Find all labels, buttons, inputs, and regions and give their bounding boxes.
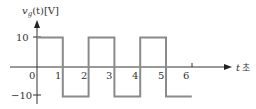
x-tick-label-4: 4 [132, 70, 138, 81]
x-tick-label-6: 6 [183, 70, 189, 81]
x-tick-label-2: 2 [81, 70, 87, 81]
y-tick-label-10: 10 [16, 32, 29, 43]
square-wave-chart: vg(t)[V] 10 −10 0 1 2 3 4 5 6 t초 [0, 0, 256, 109]
y-axis-label: vg(t)[V] [22, 5, 59, 18]
x-tick-label-1: 1 [55, 70, 61, 81]
x-axis-arrow-icon [224, 64, 232, 70]
x-tick-label-3: 3 [106, 70, 112, 81]
x-tick-label-0: 0 [29, 70, 35, 81]
x-axis-label: t초 [236, 62, 250, 73]
y-tick-label-neg10: −10 [11, 90, 32, 101]
y-axis-arrow-icon [34, 20, 40, 28]
x-tick-label-5: 5 [158, 70, 164, 81]
